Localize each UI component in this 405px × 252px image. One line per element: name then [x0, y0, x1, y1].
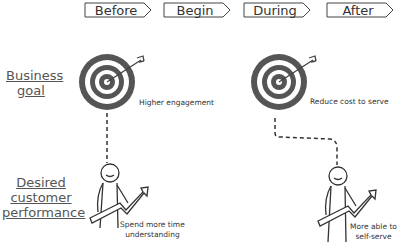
- goal-note: Higher engagement: [139, 98, 214, 108]
- stage-label: Begin: [176, 3, 219, 18]
- performance-note: More able to self-serve: [350, 222, 397, 242]
- person-with-growth-arrow-icon: [90, 164, 148, 228]
- stage-label: Before: [95, 3, 144, 18]
- stage-during: During: [243, 0, 313, 20]
- dashed-connector: [275, 118, 337, 165]
- note-line: Spend more time: [120, 220, 185, 230]
- goal-note: Reduce cost to serve: [310, 97, 389, 107]
- stage-label: After: [342, 3, 379, 18]
- note-line: self-serve: [350, 232, 397, 242]
- performance-note: Spend more time understanding: [120, 220, 185, 240]
- note-line: More able to: [350, 222, 397, 232]
- note-line: understanding: [120, 230, 185, 240]
- stage-label: During: [253, 3, 303, 18]
- diagram-art: [0, 0, 405, 252]
